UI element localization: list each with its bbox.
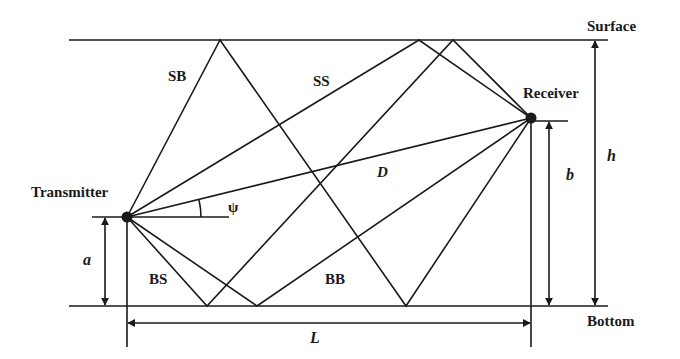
angle-arc [199, 200, 201, 217]
range-label: L [309, 329, 320, 346]
transmitter-label: Transmitter [31, 184, 109, 200]
direct-label: D [376, 164, 388, 180]
angle-label: ψ [228, 199, 239, 215]
tx-height-label: a [83, 251, 91, 268]
transmitter-node [122, 212, 133, 223]
multipath-diagram: Surface Bottom Transmitter Receiver SB S… [0, 0, 680, 359]
receiver-label: Receiver [523, 85, 579, 101]
rx-height-label: b [566, 166, 574, 183]
sb-label: SB [168, 68, 186, 84]
ss-label: SS [313, 73, 330, 89]
surface-label: Surface [587, 18, 636, 34]
bottom-label: Bottom [587, 313, 635, 329]
depth-label: h [607, 147, 616, 164]
ss-path [127, 40, 531, 217]
bb-label: BB [325, 271, 345, 287]
receiver-node [526, 113, 537, 124]
bs-label: BS [149, 271, 167, 287]
direct-path [127, 118, 531, 217]
